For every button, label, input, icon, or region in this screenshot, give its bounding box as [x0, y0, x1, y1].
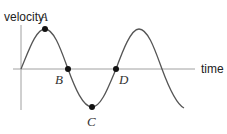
point-b-label: B: [55, 73, 63, 86]
y-axis-label: velocity: [4, 11, 44, 23]
point-c-label: C: [87, 115, 96, 128]
point-c-marker: [89, 104, 95, 110]
point-b-marker: [65, 66, 71, 72]
velocity-time-diagram: velocity time A B C D: [0, 0, 227, 134]
point-d-label: D: [119, 73, 128, 86]
x-axis-label: time: [201, 63, 224, 75]
point-a-marker: [42, 26, 48, 32]
point-a-label: A: [40, 10, 48, 23]
